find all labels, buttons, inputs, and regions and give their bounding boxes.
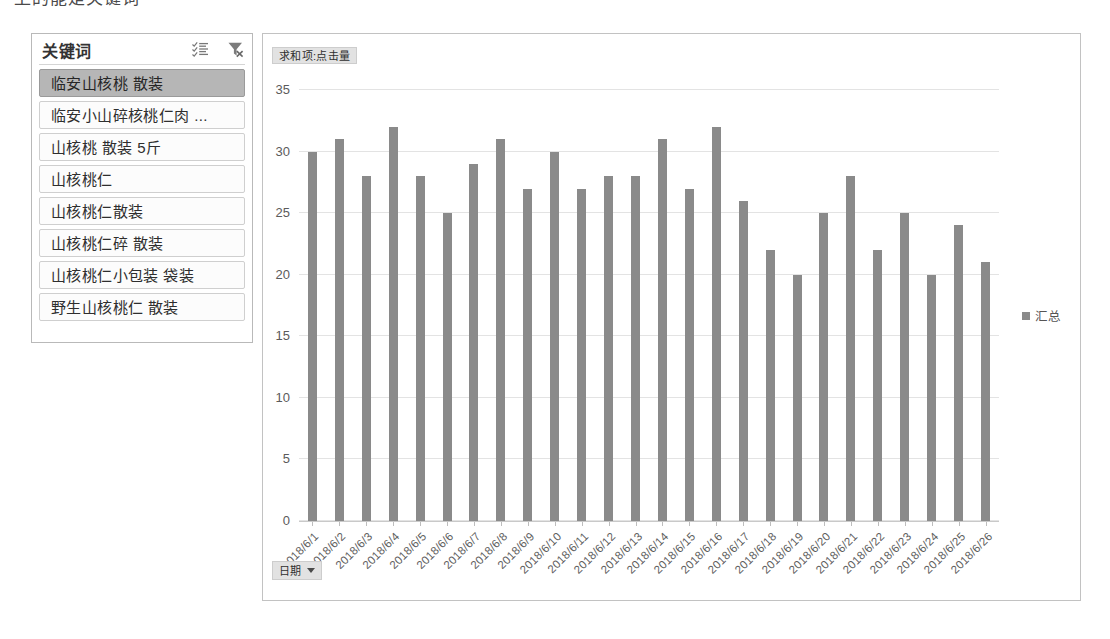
bar[interactable] bbox=[712, 127, 721, 521]
bar[interactable] bbox=[793, 275, 802, 521]
x-tick-slot: 2018/6/3 bbox=[353, 522, 380, 532]
bar[interactable] bbox=[389, 127, 398, 521]
bar-slot bbox=[703, 90, 730, 521]
value-field-button[interactable]: 求和项:点击量 bbox=[272, 47, 357, 64]
x-tick-slot: 2018/6/22 bbox=[864, 522, 891, 532]
x-tick-mark bbox=[501, 522, 502, 526]
x-tick-mark bbox=[662, 522, 663, 526]
x-tick-slot: 2018/6/25 bbox=[945, 522, 972, 532]
cut-off-header-text: 上的能是关键词 bbox=[14, 0, 140, 9]
bar-slot bbox=[407, 90, 434, 521]
slicer-header-icons bbox=[192, 41, 244, 58]
bar[interactable] bbox=[469, 164, 478, 521]
x-tick-mark bbox=[393, 522, 394, 526]
bar-slot bbox=[622, 90, 649, 521]
bar[interactable] bbox=[443, 213, 452, 521]
bar[interactable] bbox=[550, 152, 559, 521]
bar[interactable] bbox=[416, 176, 425, 521]
slicer-item-1[interactable]: 临安小山碎核桃仁肉 ... bbox=[39, 101, 245, 129]
bar[interactable] bbox=[604, 176, 613, 521]
x-tick-mark bbox=[905, 522, 906, 526]
x-tick-mark bbox=[420, 522, 421, 526]
y-tick-label-10: 10 bbox=[276, 389, 290, 404]
slicer-item-7[interactable]: 野生山核桃仁 散装 bbox=[39, 293, 245, 321]
x-tick-slot: 2018/6/21 bbox=[837, 522, 864, 532]
bar-slot bbox=[568, 90, 595, 521]
x-tick-slot: 2018/6/2 bbox=[326, 522, 353, 532]
x-tick-mark bbox=[770, 522, 771, 526]
bar-slot bbox=[353, 90, 380, 521]
x-tick-mark bbox=[959, 522, 960, 526]
slicer-item-6[interactable]: 山核桃仁小包装 袋装 bbox=[39, 261, 245, 289]
axis-field-label: 日期 bbox=[279, 564, 302, 578]
y-tick-label-35: 35 bbox=[276, 82, 290, 97]
x-tick-mark bbox=[609, 522, 610, 526]
x-tick-slot: 2018/6/13 bbox=[622, 522, 649, 532]
x-tick-slot: 2018/6/18 bbox=[757, 522, 784, 532]
x-tick-mark bbox=[555, 522, 556, 526]
clear-filter-icon[interactable] bbox=[227, 41, 244, 58]
x-tick-mark bbox=[447, 522, 448, 526]
axis-field-button[interactable]: 日期 bbox=[272, 561, 322, 580]
slicer-title: 关键词 bbox=[42, 38, 92, 62]
x-tick-slot: 2018/6/4 bbox=[380, 522, 407, 532]
bar[interactable] bbox=[981, 262, 990, 521]
bar[interactable] bbox=[362, 176, 371, 521]
slicer-header-divider bbox=[39, 64, 245, 65]
bar-slot bbox=[595, 90, 622, 521]
y-tick-label-5: 5 bbox=[283, 451, 290, 466]
bar-slot bbox=[649, 90, 676, 521]
bar-slot bbox=[784, 90, 811, 521]
y-tick-label-25: 25 bbox=[276, 205, 290, 220]
bar[interactable] bbox=[927, 275, 936, 521]
x-tick-slot: 2018/6/7 bbox=[461, 522, 488, 532]
x-tick-slot: 2018/6/12 bbox=[595, 522, 622, 532]
x-tick-slot: 2018/6/11 bbox=[568, 522, 595, 532]
x-tick-mark bbox=[932, 522, 933, 526]
chevron-down-icon bbox=[307, 568, 315, 573]
x-tick-slot: 2018/6/6 bbox=[434, 522, 461, 532]
bar[interactable] bbox=[631, 176, 640, 521]
bar[interactable] bbox=[523, 189, 532, 521]
bar[interactable] bbox=[658, 139, 667, 521]
bar-slot bbox=[676, 90, 703, 521]
multi-select-icon[interactable] bbox=[192, 41, 209, 58]
bar[interactable] bbox=[685, 189, 694, 521]
bar[interactable] bbox=[739, 201, 748, 521]
bar[interactable] bbox=[308, 152, 317, 521]
bar-slot bbox=[487, 90, 514, 521]
x-tick-slot: 2018/6/9 bbox=[514, 522, 541, 532]
slicer-item-4[interactable]: 山核桃仁散装 bbox=[39, 197, 245, 225]
bars-layer bbox=[299, 90, 999, 521]
x-tick-mark bbox=[689, 522, 690, 526]
x-tick-mark bbox=[528, 522, 529, 526]
bar-slot bbox=[326, 90, 353, 521]
bar[interactable] bbox=[577, 189, 586, 521]
x-tick-mark bbox=[878, 522, 879, 526]
bar[interactable] bbox=[954, 225, 963, 521]
x-tick-slot: 2018/6/5 bbox=[407, 522, 434, 532]
slicer-item-5[interactable]: 山核桃仁碎 散装 bbox=[39, 229, 245, 257]
slicer-item-2[interactable]: 山核桃 散装 5斤 bbox=[39, 133, 245, 161]
legend-label: 汇总 bbox=[1035, 306, 1061, 325]
slicer-item-0[interactable]: 临安山核桃 散装 bbox=[39, 69, 245, 97]
bar[interactable] bbox=[335, 139, 344, 521]
bar[interactable] bbox=[819, 213, 828, 521]
bar-slot bbox=[434, 90, 461, 521]
bar-slot bbox=[945, 90, 972, 521]
bar-slot bbox=[541, 90, 568, 521]
legend-swatch bbox=[1022, 312, 1030, 320]
bar[interactable] bbox=[846, 176, 855, 521]
x-tick-slot: 2018/6/14 bbox=[649, 522, 676, 532]
bar-slot bbox=[864, 90, 891, 521]
x-tick-slot: 2018/6/1 bbox=[299, 522, 326, 532]
bar[interactable] bbox=[496, 139, 505, 521]
bar[interactable] bbox=[766, 250, 775, 521]
x-tick-mark bbox=[716, 522, 717, 526]
bar[interactable] bbox=[873, 250, 882, 521]
keyword-slicer-panel: 关键词 bbox=[31, 33, 253, 343]
x-tick-mark bbox=[824, 522, 825, 526]
slicer-item-3[interactable]: 山核桃仁 bbox=[39, 165, 245, 193]
bar[interactable] bbox=[900, 213, 909, 521]
bar-slot bbox=[730, 90, 757, 521]
